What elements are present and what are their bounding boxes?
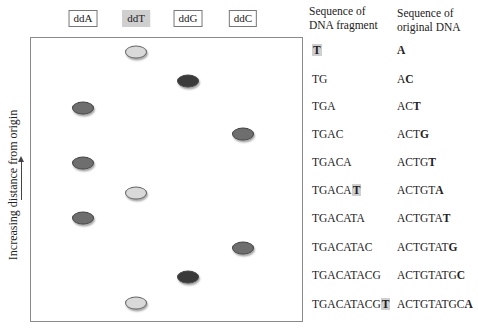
original-header-line2: original DNA [397,20,461,34]
band-ddg-9 [177,271,199,284]
band-ddc-8 [232,242,254,255]
band-dda-3 [72,102,94,115]
original-sequence-9: ACTGTATGC [397,268,465,282]
band-dda-5 [72,157,94,170]
fragment-sequence-5: TGACA [312,155,352,169]
fragment-sequence-9: TGACATACG [312,268,381,282]
original-sequence-4: ACTG [397,127,429,141]
original-sequence-5: ACTGT [397,155,436,169]
band-ddt-10 [125,297,147,310]
original-sequence-1: A [397,43,405,57]
fragment-sequence-6: TGACAT [312,183,361,197]
band-ddt-6 [125,187,147,200]
fragment-sequence-2: TG [312,72,327,86]
fragment-sequence-3: TGA [312,99,336,113]
y-axis-label: Increasing distance from origin [6,110,21,260]
fragment-header-line1: Sequence of [309,4,378,18]
lane-label-ddt: ddT [122,10,150,27]
band-dda-7 [72,212,94,225]
original-header-line1: Sequence of [397,6,461,20]
original-sequence-2: AC [397,72,414,86]
lane-label-ddc: ddC [229,10,257,27]
fragment-sequence-7: TGACATA [312,211,365,225]
original-sequence-7: ACTGTAT [397,211,450,225]
band-ddc-4 [232,128,254,141]
original-sequence-10: ACTGTATGCA [397,297,473,311]
band-ddt-1 [125,46,147,59]
original-sequence-3: ACT [397,99,421,113]
sequencing-gel [30,37,303,322]
up-arrow-icon [21,160,22,200]
band-ddg-2 [177,75,199,88]
fragment-sequence-8: TGACATAC [312,240,372,254]
fragment-column-header: Sequence of DNA fragment [309,4,378,32]
original-column-header: Sequence of original DNA [397,6,461,34]
original-sequence-6: ACTGTA [397,183,444,197]
original-sequence-8: ACTGTATG [397,240,457,254]
fragment-sequence-1: T [312,43,322,57]
fragment-header-line2: DNA fragment [309,18,378,32]
fragment-sequence-10: TGACATACGT [312,297,390,311]
fragment-sequence-4: TGAC [312,127,343,141]
lane-label-dda: ddA [69,10,98,27]
lane-label-ddg: ddG [174,10,203,27]
